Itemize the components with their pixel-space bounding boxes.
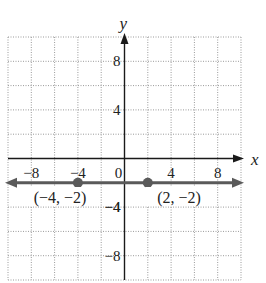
y-tick-label: 8 bbox=[113, 53, 121, 69]
labels: xy−8−404884−4−8(−4, −2)(2, −2)−4 bbox=[22, 14, 259, 264]
y-tick-label: −4 bbox=[105, 199, 121, 215]
line-left-arrow-icon bbox=[5, 178, 17, 188]
x-tick-label: −8 bbox=[23, 165, 39, 181]
line-right-arrow-icon bbox=[232, 178, 244, 188]
x-axis-arrow-icon bbox=[233, 155, 244, 163]
coordinate-plane: xy−8−404884−4−8(−4, −2)(2, −2)−4 bbox=[0, 0, 266, 283]
x-tick-label: 8 bbox=[214, 165, 222, 181]
x-tick-label: −4 bbox=[70, 165, 86, 181]
point-label: (−4, −2) bbox=[34, 189, 87, 207]
x-tick-label: 0 bbox=[115, 165, 123, 181]
y-axis-arrow-icon bbox=[121, 33, 129, 44]
data-point bbox=[143, 178, 153, 188]
x-tick-label: 4 bbox=[167, 165, 175, 181]
point-label: (2, −2) bbox=[157, 189, 201, 207]
axes bbox=[8, 33, 244, 280]
y-tick-label: 4 bbox=[113, 102, 121, 118]
x-axis-label: x bbox=[250, 150, 259, 169]
y-axis-label: y bbox=[118, 14, 128, 33]
y-tick-label: −8 bbox=[105, 248, 121, 264]
